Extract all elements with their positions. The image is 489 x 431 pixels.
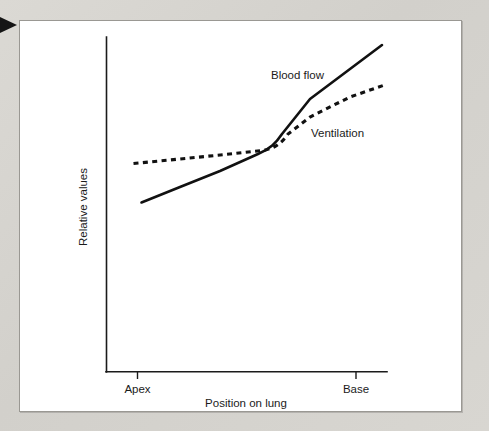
series-line-ventilation: [134, 85, 387, 164]
figure-panel: Blood flow Ventilation Apex Base Positio…: [19, 20, 462, 412]
screenshot-root: Blood flow Ventilation Apex Base Positio…: [0, 0, 489, 431]
x-axis-title: Position on lung: [205, 397, 287, 409]
x-tick-label-base: Base: [343, 383, 369, 395]
series-label-ventilation: Ventilation: [311, 127, 364, 139]
pointer-triangle-icon: [0, 17, 17, 33]
series-label-blood-flow: Blood flow: [271, 69, 325, 81]
y-axis-title: Relative values: [77, 168, 89, 246]
series-line-blood-flow: [142, 45, 383, 203]
line-chart: Blood flow Ventilation Apex Base Positio…: [20, 21, 461, 411]
x-tick-label-apex: Apex: [124, 383, 150, 395]
